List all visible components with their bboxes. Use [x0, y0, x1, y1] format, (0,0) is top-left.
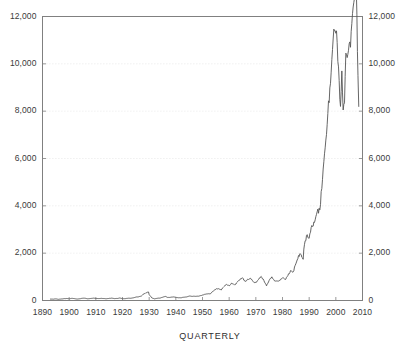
y-axis-right-tick: 12,000 — [369, 11, 396, 21]
y-axis-left-tick: 10,000 — [0, 58, 37, 68]
x-axis-tick: 2010 — [343, 307, 383, 317]
y-axis-left-tick: 12,000 — [0, 11, 37, 21]
y-axis-left-tick: 2,000 — [0, 247, 37, 257]
y-axis-left-tick: 6,000 — [0, 153, 37, 163]
y-axis-right-tick: 4,000 — [369, 200, 391, 210]
y-axis-left-tick: 4,000 — [0, 200, 37, 210]
chart-figure: 02,0004,0006,0008,00010,00012,000 02,000… — [0, 0, 420, 352]
y-axis-right-tick: 8,000 — [369, 105, 391, 115]
chart-canvas — [0, 0, 420, 352]
y-axis-right-tick: 6,000 — [369, 153, 391, 163]
x-axis-title: QUARTERLY — [0, 331, 420, 341]
y-axis-right-tick: 10,000 — [369, 58, 396, 68]
y-axis-left-tick: 0 — [0, 295, 37, 305]
y-axis-right-tick: 2,000 — [369, 247, 391, 257]
data-series-line — [51, 0, 359, 299]
y-axis-right-tick: 0 — [369, 295, 374, 305]
y-axis-left-tick: 8,000 — [0, 105, 37, 115]
